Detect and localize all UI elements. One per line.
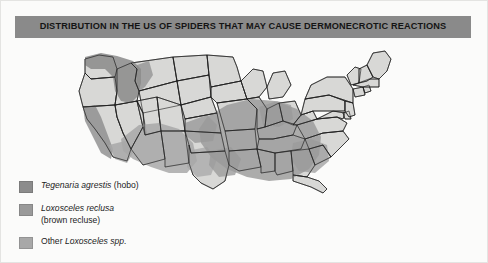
legend-swatch-tegenaria-agrestis bbox=[19, 181, 33, 193]
legend-item-tegenaria-agrestis: Tegenaria agrestis (hobo) bbox=[19, 180, 249, 193]
legend-scientific-name-other-loxosceles: Loxosceles spp. bbox=[65, 236, 127, 246]
legend-scientific-name-reclusa: Loxosceles reclusa bbox=[41, 203, 114, 213]
legend-label-tegenaria-agrestis: Tegenaria agrestis (hobo) bbox=[41, 180, 139, 192]
legend-item-loxosceles-reclusa: Loxosceles reclusa (brown recluse) bbox=[19, 203, 249, 226]
legend-item-other-loxosceles: Other Loxosceles spp. bbox=[19, 236, 249, 249]
spider-distribution-figure: DISTRIBUTION IN THE US OF SPIDERS THAT M… bbox=[0, 0, 488, 263]
map-legend: Tegenaria agrestis (hobo) Loxosceles rec… bbox=[19, 180, 249, 249]
legend-swatch-other-loxosceles bbox=[19, 237, 33, 249]
legend-label-other-loxosceles: Other Loxosceles spp. bbox=[41, 236, 127, 248]
legend-scientific-name-tegenaria: Tegenaria agrestis bbox=[41, 180, 111, 190]
figure-title: DISTRIBUTION IN THE US OF SPIDERS THAT M… bbox=[40, 22, 447, 31]
united-states-map bbox=[61, 47, 441, 195]
legend-common-name-reclusa: (brown recluse) bbox=[41, 215, 100, 225]
legend-prefix-other: Other bbox=[41, 236, 65, 246]
legend-label-loxosceles-reclusa: Loxosceles reclusa (brown recluse) bbox=[41, 203, 114, 226]
map-container bbox=[61, 47, 441, 195]
figure-title-bar: DISTRIBUTION IN THE US OF SPIDERS THAT M… bbox=[15, 16, 471, 38]
legend-common-name-tegenaria: (hobo) bbox=[111, 180, 138, 190]
legend-swatch-loxosceles-reclusa bbox=[19, 204, 33, 216]
